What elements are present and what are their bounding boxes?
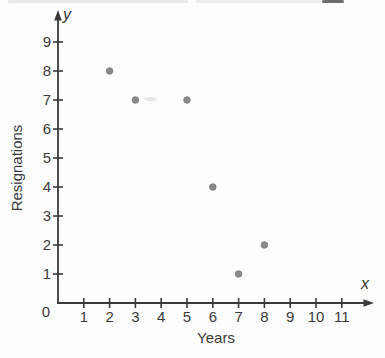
data-point: [210, 184, 217, 191]
y-tick-label: 1: [21, 265, 51, 283]
y-axis-arrowhead-icon: [54, 10, 62, 21]
y-axis-letter: y: [63, 6, 71, 24]
x-axis-arrowhead-icon: [364, 299, 375, 307]
x-axis-letter: x: [361, 275, 369, 293]
data-point: [106, 68, 113, 75]
y-tick-label: 8: [21, 62, 51, 80]
x-tick-label: 11: [327, 308, 357, 326]
y-tick-label: 3: [21, 207, 51, 225]
y-tick-label: 6: [21, 120, 51, 138]
scatter-plot-figure: y x 0 Resignations Years 123456789123456…: [0, 0, 385, 358]
y-tick-label: 4: [21, 178, 51, 196]
data-point: [132, 97, 139, 104]
data-point: [261, 242, 268, 249]
y-tick-label: 2: [21, 236, 51, 254]
data-point: [184, 97, 191, 104]
plot-area: [0, 0, 385, 358]
y-tick-label: 9: [21, 33, 51, 51]
x-axis-title: Years: [116, 329, 316, 347]
y-tick-label: 7: [21, 91, 51, 109]
origin-tick-label: 0: [38, 303, 54, 321]
y-tick-label: 5: [21, 149, 51, 167]
data-point: [235, 271, 242, 278]
